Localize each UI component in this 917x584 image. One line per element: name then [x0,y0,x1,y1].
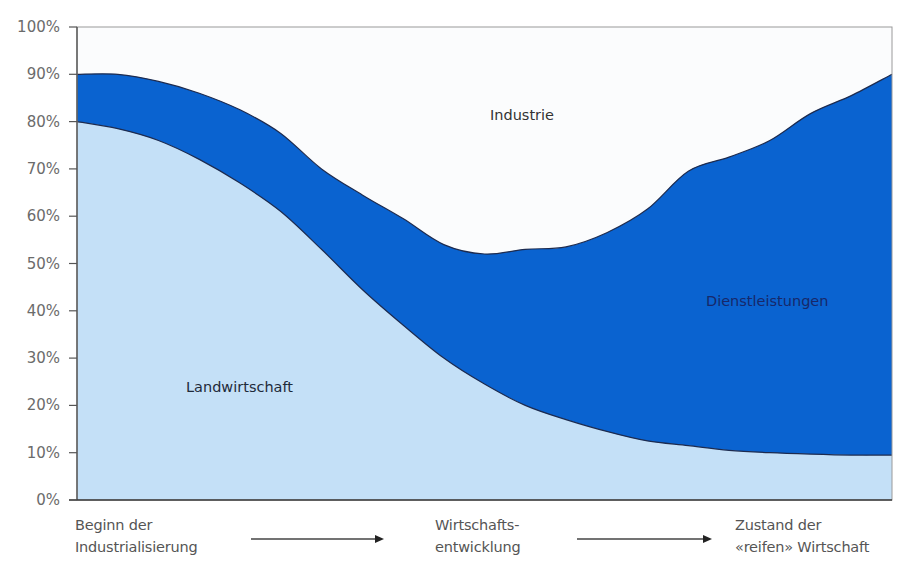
progress-arrow-1 [251,535,384,543]
y-tick-label: 40% [27,302,60,320]
dienstleistungen-label: Dienstleistungen [706,293,828,309]
x-stage-end-line2: «reifen» Wirtschaft [735,536,869,558]
progress-arrow-2 [577,535,712,543]
x-stage-end-line1: Zustand der [735,514,869,536]
y-tick-label: 60% [27,207,60,225]
y-tick-label: 10% [27,444,60,462]
y-tick-label: 0% [36,491,60,509]
plot-areas [77,27,892,500]
y-tick-label: 20% [27,396,60,414]
x-stage-start-line1: Beginn der [75,514,197,536]
x-stage-end: Zustand der «reifen» Wirtschaft [735,514,869,558]
y-axis-ticks: 0%10%20%30%40%50%60%70%80%90%100% [17,18,77,509]
y-tick-label: 50% [27,255,60,273]
y-tick-label: 30% [27,349,60,367]
x-stage-middle-line1: Wirtschafts- [435,514,520,536]
x-stage-start-line2: Industrialisierung [75,536,197,558]
y-tick-label: 70% [27,160,60,178]
y-tick-label: 90% [27,65,60,83]
x-stage-middle: Wirtschafts- entwicklung [435,514,520,558]
industrie-label: Industrie [490,107,554,123]
x-stage-start: Beginn der Industrialisierung [75,514,197,558]
stacked-area-chart: 0%10%20%30%40%50%60%70%80%90%100% Landwi… [0,0,917,584]
y-tick-label: 80% [27,113,60,131]
landwirtschaft-label: Landwirtschaft [186,379,293,395]
y-tick-label: 100% [17,18,60,36]
x-stage-middle-line2: entwicklung [435,536,520,558]
